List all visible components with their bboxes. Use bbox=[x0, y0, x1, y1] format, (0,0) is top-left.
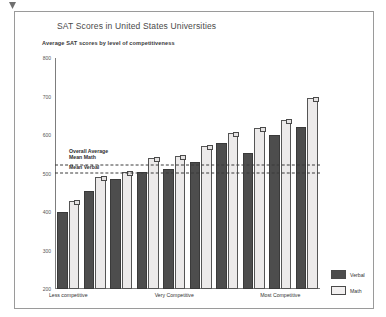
bar-verbal bbox=[84, 191, 95, 289]
legend-item-math: Math bbox=[331, 286, 365, 295]
y-tick-label: 800 bbox=[43, 55, 51, 61]
bar-verbal bbox=[57, 212, 68, 289]
data-point-marker bbox=[260, 127, 266, 132]
data-point-marker bbox=[101, 176, 107, 181]
data-point-marker bbox=[233, 132, 239, 137]
y-tick-label: 700 bbox=[43, 94, 51, 100]
bar-math bbox=[201, 146, 212, 289]
chart-subtitle: Average SAT scores by level of competiti… bbox=[42, 40, 175, 46]
bar-verbal bbox=[243, 153, 254, 289]
chart-legend: Verbal Math bbox=[331, 270, 365, 302]
bar-math bbox=[69, 201, 80, 289]
data-point-marker bbox=[313, 97, 319, 102]
bar-math bbox=[307, 98, 318, 289]
legend-label-verbal: Verbal bbox=[350, 272, 365, 278]
bar-verbal bbox=[190, 162, 201, 289]
chart-screenshot: SAT Scores in United States Universities… bbox=[0, 0, 386, 317]
chart-title: SAT Scores in United States Universities bbox=[57, 21, 216, 31]
reference-line bbox=[55, 173, 320, 174]
legend-swatch-verbal bbox=[331, 270, 346, 279]
legend-item-verbal: Verbal bbox=[331, 270, 365, 279]
bar-verbal bbox=[269, 135, 280, 289]
y-tick-label: 400 bbox=[43, 209, 51, 215]
data-point-marker bbox=[180, 155, 186, 160]
y-tick-label: 600 bbox=[43, 132, 51, 138]
y-tick-label: 300 bbox=[43, 248, 51, 254]
bar-math bbox=[175, 156, 186, 289]
y-tick-label: 500 bbox=[43, 171, 51, 177]
x-axis-label: Very Competitive bbox=[155, 292, 194, 298]
legend-label-math: Math bbox=[350, 288, 362, 294]
bar-verbal bbox=[296, 127, 307, 289]
x-axis-label: Most Competitive bbox=[260, 292, 300, 298]
bar-verbal bbox=[163, 169, 174, 289]
bar-verbal bbox=[110, 179, 121, 289]
reference-line-label: Mean Verbal bbox=[69, 164, 99, 170]
bar-math bbox=[254, 128, 265, 289]
bar-math bbox=[122, 172, 133, 289]
data-point-marker bbox=[154, 157, 160, 162]
legend-swatch-math bbox=[331, 286, 346, 295]
reference-line-label: Overall AverageMean Math bbox=[69, 148, 108, 161]
cursor-marker-icon bbox=[9, 2, 16, 9]
plot-area: Overall AverageMean MathMean Verbal 2003… bbox=[55, 58, 320, 289]
data-point-marker bbox=[207, 145, 213, 150]
bar-math bbox=[95, 177, 106, 289]
bar-math bbox=[148, 158, 159, 289]
data-point-marker bbox=[286, 119, 292, 124]
bar-math bbox=[228, 133, 239, 289]
bar-verbal bbox=[137, 172, 148, 289]
bar-math bbox=[281, 120, 292, 289]
x-axis-label: Less competitive bbox=[49, 292, 88, 298]
chart-figure-frame: SAT Scores in United States Universities… bbox=[14, 11, 374, 309]
bar-verbal bbox=[216, 143, 227, 289]
data-point-marker bbox=[74, 200, 80, 205]
